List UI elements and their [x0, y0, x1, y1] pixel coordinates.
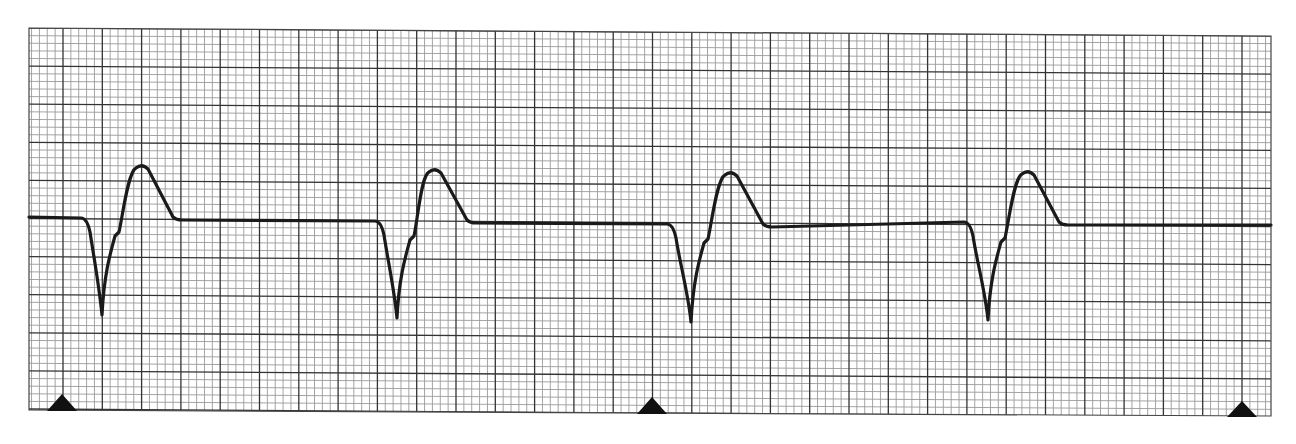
major-grid-line [27, 180, 1273, 188]
major-grid-line [27, 371, 1273, 379]
minor-grid-line [27, 386, 1273, 394]
minor-grid-line [27, 119, 1273, 127]
major-grid-line [27, 66, 1273, 74]
minor-grid-line [27, 112, 1273, 120]
major-grid-line [27, 295, 1273, 303]
minor-grid-line [27, 165, 1273, 173]
major-grid-line [27, 333, 1273, 341]
minor-grid-line [27, 310, 1273, 318]
major-grid-line [27, 104, 1273, 112]
minor-grid-line [27, 150, 1273, 158]
minor-grid-line [27, 196, 1273, 204]
minor-grid-line [27, 234, 1273, 242]
minor-grid-line [27, 272, 1273, 280]
minor-grid-line [27, 318, 1273, 326]
minor-grid-line [27, 188, 1273, 196]
major-grid-line [27, 142, 1273, 150]
minor-grid-line [27, 348, 1273, 356]
minor-grid-line [27, 158, 1273, 166]
minor-grid-line [27, 249, 1273, 257]
minor-grid-line [27, 302, 1273, 310]
triangle-marker-icon [47, 394, 77, 411]
minor-grid-line [27, 81, 1273, 89]
minor-grid-line [27, 89, 1273, 97]
minor-grid-line [27, 97, 1273, 105]
minor-grid-line [27, 363, 1273, 371]
major-grid-line [27, 257, 1273, 265]
minor-grid-line [27, 287, 1273, 295]
minor-grid-line [27, 264, 1273, 272]
minor-grid-line [27, 36, 1273, 44]
minor-grid-line [27, 241, 1273, 249]
minor-grid-line [27, 279, 1273, 287]
minor-grid-line [27, 340, 1273, 348]
minor-grid-line [27, 379, 1273, 387]
minor-grid-line [27, 226, 1273, 234]
minor-grid-line [27, 74, 1273, 82]
minor-grid-line [27, 58, 1273, 66]
minor-grid-line [27, 51, 1273, 59]
minor-grid-line [27, 356, 1273, 364]
minor-grid-line [27, 173, 1273, 181]
minor-grid-line [27, 211, 1273, 219]
minor-grid-line [27, 325, 1273, 333]
ecg-strip [0, 0, 1296, 444]
minor-grid-line [27, 203, 1273, 211]
minor-grid-line [27, 43, 1273, 51]
minor-grid-line [27, 135, 1273, 143]
minor-grid-line [27, 127, 1273, 135]
